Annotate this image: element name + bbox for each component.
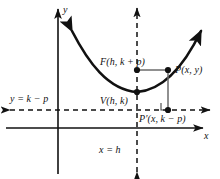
y-axis-label: y: [63, 5, 68, 15]
point-p-marker: [165, 67, 171, 73]
vertex-point: [134, 89, 140, 95]
directrix-label: y = k − p: [10, 94, 48, 104]
point-p-label: P(x, y): [175, 65, 202, 75]
focus-point: [134, 67, 140, 73]
vertex-label: V(h, k): [100, 96, 128, 106]
focus-label: F(h, k + p): [100, 57, 145, 67]
parabola-diagram: F(h, k + p) V(h, k) P(x, y) P'(x, k − p)…: [0, 0, 220, 179]
x-axis-label: x: [204, 131, 209, 141]
point-p-prime-label: P'(x, k − p): [139, 114, 186, 124]
axis-of-symmetry-label: x = h: [99, 145, 121, 155]
